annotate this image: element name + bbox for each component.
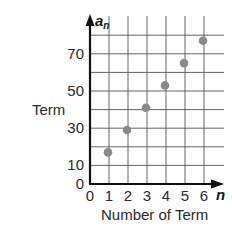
data-point bbox=[123, 126, 132, 135]
x-tick-label: 3 bbox=[143, 187, 151, 204]
data-point bbox=[104, 148, 113, 157]
x-tick-label: 0 bbox=[86, 187, 94, 204]
data-point bbox=[180, 59, 189, 68]
scatter-chart: 0123456 010305070 an n Term Number of Te… bbox=[0, 0, 232, 227]
y-tick-label: 30 bbox=[67, 119, 84, 136]
y-tick-label: 10 bbox=[67, 156, 84, 173]
y-axis-title: Term bbox=[32, 101, 65, 118]
y-tick-label: 50 bbox=[67, 82, 84, 99]
y-tick-label: 0 bbox=[76, 175, 84, 192]
y-tick-label: 70 bbox=[67, 45, 84, 62]
x-tick-label: 1 bbox=[105, 187, 113, 204]
x-tick-label: 4 bbox=[162, 187, 170, 204]
x-axis-title: Number of Term bbox=[101, 206, 208, 223]
x-tick-label: 5 bbox=[181, 187, 189, 204]
y-variable-label: an bbox=[95, 12, 109, 31]
y-axis-arrow-icon bbox=[86, 14, 95, 26]
x-tick-label: 2 bbox=[124, 187, 132, 204]
data-point bbox=[199, 36, 208, 45]
data-points bbox=[104, 36, 208, 156]
x-tick-labels: 0123456 bbox=[86, 187, 208, 204]
y-tick-labels: 010305070 bbox=[67, 45, 84, 192]
data-point bbox=[161, 81, 170, 90]
x-variable-label: n bbox=[216, 186, 225, 203]
data-point bbox=[142, 103, 151, 112]
x-tick-label: 6 bbox=[200, 187, 208, 204]
